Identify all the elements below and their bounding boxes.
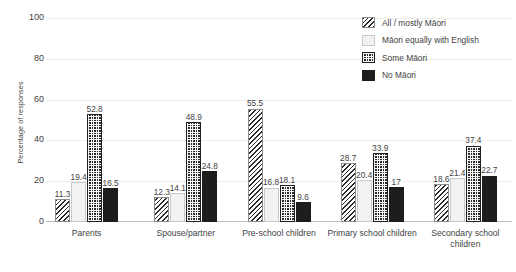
bar[interactable]: 16.8 <box>264 188 279 222</box>
bar[interactable]: 11.3 <box>55 199 70 222</box>
bar-group: 12.314.148.924.8 <box>154 18 217 222</box>
bar-value-label: 12.3 <box>154 188 170 196</box>
bar-value-label: 16.5 <box>103 179 119 187</box>
bar[interactable]: 18.6 <box>434 184 449 222</box>
x-axis-category-label: Parents <box>39 228 135 239</box>
y-axis-ticks: 020406080100 <box>0 0 44 272</box>
legend-label: No Māori <box>382 71 416 79</box>
bar[interactable]: 21.4 <box>450 178 465 222</box>
bar[interactable]: 48.9 <box>186 122 201 222</box>
x-axis-category-label: Pre-school children <box>231 228 327 239</box>
bar-value-label: 33.9 <box>372 144 388 152</box>
legend-label: All / mostly Māori <box>382 19 446 27</box>
bar[interactable]: 17 <box>389 187 404 222</box>
bar[interactable]: 28.7 <box>341 163 356 222</box>
y-tick-label: 20 <box>20 176 44 185</box>
bar-value-label: 14.1 <box>170 184 186 192</box>
bar[interactable]: 24.8 <box>202 171 217 222</box>
legend-swatch-icon <box>362 35 375 46</box>
legend-label: Some Māori <box>382 54 427 62</box>
bar-value-label: 18.1 <box>279 176 295 184</box>
y-tick-label: 80 <box>20 54 44 63</box>
bar-value-label: 18.6 <box>433 175 449 183</box>
legend-item[interactable]: All / mostly Māori <box>362 14 516 32</box>
bar-value-label: 21.4 <box>449 169 465 177</box>
bar-value-label: 37.4 <box>465 136 481 144</box>
legend-swatch-icon <box>362 70 375 81</box>
x-axis-category-label: Primary school children <box>324 228 420 239</box>
bar[interactable]: 18.1 <box>280 185 295 222</box>
bar[interactable]: 33.9 <box>373 153 388 222</box>
x-axis-category-label: Spouse/partner <box>138 228 234 239</box>
y-tick-label: 100 <box>20 13 44 22</box>
legend-label: Māori equally with English <box>382 36 479 44</box>
y-tick-label: 40 <box>20 135 44 144</box>
bar[interactable]: 12.3 <box>154 197 169 222</box>
legend-item[interactable]: Māori equally with English <box>362 32 516 50</box>
bar-group: 11.319.452.816.5 <box>55 18 118 222</box>
bar[interactable]: 14.1 <box>170 193 185 222</box>
legend-item[interactable]: No Māori <box>362 67 516 85</box>
legend-swatch-icon <box>362 52 375 63</box>
legend-swatch-icon <box>362 17 375 28</box>
bar-value-label: 24.8 <box>202 162 218 170</box>
y-tick-label: 0 <box>20 217 44 226</box>
bar-value-label: 9.6 <box>297 193 309 201</box>
y-tick-label: 60 <box>20 95 44 104</box>
bar-value-label: 20.4 <box>356 171 372 179</box>
bar-value-label: 11.3 <box>55 190 71 198</box>
bar-group: 55.516.818.19.6 <box>248 18 311 222</box>
x-axis-category-label: Secondary school children <box>417 228 513 249</box>
bar[interactable]: 52.8 <box>87 114 102 222</box>
bar-value-label: 16.8 <box>263 178 279 186</box>
bar[interactable]: 16.5 <box>103 188 118 222</box>
bar-value-label: 17 <box>392 178 401 186</box>
legend-item[interactable]: Some Māori <box>362 49 516 67</box>
bar-value-label: 22.7 <box>481 166 497 174</box>
bar[interactable]: 20.4 <box>357 180 372 222</box>
bar[interactable]: 19.4 <box>71 182 86 222</box>
bar[interactable]: 55.5 <box>248 109 263 222</box>
bar[interactable]: 22.7 <box>482 176 497 222</box>
bar-value-label: 55.5 <box>247 99 263 107</box>
bar[interactable]: 37.4 <box>466 146 481 222</box>
bar[interactable]: 9.6 <box>296 202 311 222</box>
bar-value-label: 28.7 <box>340 154 356 162</box>
chart-legend: All / mostly MāoriMāori equally with Eng… <box>362 14 516 84</box>
bar-value-label: 48.9 <box>186 113 202 121</box>
bar-value-label: 19.4 <box>71 173 87 181</box>
bar-chart: Percentage of responses 020406080100 11.… <box>0 0 516 272</box>
bar-value-label: 52.8 <box>87 105 103 113</box>
